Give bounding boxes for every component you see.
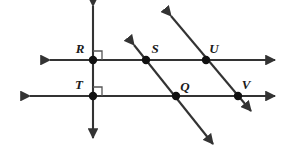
point-label-Q: Q: [180, 79, 190, 94]
point-label-R: R: [75, 41, 85, 56]
point-U: [202, 56, 210, 64]
point-label-T: T: [75, 77, 84, 92]
points-group: [89, 56, 242, 100]
lines-group: [30, 6, 275, 144]
point-R: [89, 56, 97, 64]
geometry-figure: R S U T Q V: [0, 0, 287, 159]
point-S: [142, 56, 150, 64]
point-T: [89, 92, 97, 100]
point-label-S: S: [151, 41, 158, 56]
point-Q: [172, 92, 180, 100]
point-label-V: V: [242, 77, 252, 92]
geometry-canvas: R S U T Q V: [0, 0, 287, 159]
point-label-U: U: [209, 41, 219, 56]
point-labels-group: R S U T Q V: [75, 41, 252, 94]
point-V: [234, 92, 242, 100]
